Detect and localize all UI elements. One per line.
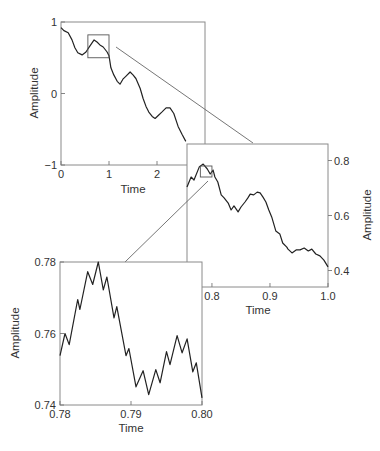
y-tick-label: 0.4 — [334, 265, 349, 277]
plot-frame — [187, 144, 328, 287]
x-axis-label: Time — [120, 183, 145, 195]
y-axis-label: Amplitude — [9, 307, 21, 358]
y-axis-label: Amplitude — [28, 67, 40, 118]
y-tick-label: 0.6 — [334, 210, 349, 222]
x-axis-label: Time — [118, 422, 143, 434]
plot-frame — [60, 262, 202, 405]
x-tick-label: 0.8 — [204, 290, 219, 302]
zoom-cascade-figure: 012−101 Time Amplitude 0.80.91.00.40.60.… — [0, 0, 380, 451]
x-tick-label: 1 — [106, 168, 112, 180]
plot-frame — [61, 22, 205, 165]
x-tick-label: 0 — [58, 168, 64, 180]
y-tick-label: 0.74 — [35, 399, 56, 411]
panel-zoom-level-2: 0.780.790.800.740.760.78 Time Amplitude — [9, 256, 213, 434]
x-tick-label: 0.79 — [120, 408, 141, 420]
panel-zoom-level-1: 0.80.91.00.40.60.8 Time Amplitude — [187, 144, 373, 316]
x-tick-label: 1.0 — [320, 290, 335, 302]
y-tick-label: 1 — [51, 16, 57, 28]
x-tick-label: 2 — [154, 168, 160, 180]
x-tick-label: 0.80 — [191, 408, 212, 420]
y-tick-label: −1 — [44, 159, 57, 171]
y-tick-label: 0.76 — [35, 328, 56, 340]
y-axis-label: Amplitude — [361, 189, 373, 240]
y-tick-label: 0.8 — [334, 155, 349, 167]
y-tick-label: 0.78 — [35, 256, 56, 268]
x-axis-label: Time — [245, 304, 270, 316]
y-tick-label: 0 — [51, 88, 57, 100]
panel-full-signal: 012−101 Time Amplitude — [28, 16, 205, 195]
x-tick-label: 0.9 — [262, 290, 277, 302]
